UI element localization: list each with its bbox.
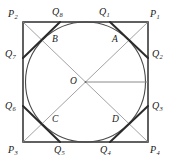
label-p4: P4 (150, 145, 159, 155)
label-o: O (70, 77, 77, 87)
label-q2: Q2 (152, 49, 162, 59)
label-a: A (112, 35, 118, 45)
geometry-figure: P1 P2 P3 P4 Q1 Q2 Q3 Q4 Q5 Q6 Q7 Q8 A B … (0, 0, 172, 164)
label-q6: Q6 (5, 101, 15, 111)
label-q5: Q5 (54, 145, 64, 155)
label-c: C (52, 115, 58, 125)
label-q3: Q3 (152, 101, 162, 111)
label-p2: P2 (8, 9, 17, 19)
label-q1: Q1 (99, 7, 109, 17)
label-p3: P3 (8, 145, 17, 155)
label-q7: Q7 (5, 49, 15, 59)
label-q4: Q4 (100, 145, 110, 155)
figure-canvas (0, 0, 172, 164)
label-d: D (112, 115, 119, 125)
label-q8: Q8 (52, 7, 62, 17)
label-p1: P1 (150, 9, 159, 19)
center-point-marker (85, 81, 87, 83)
label-b: B (52, 35, 58, 45)
